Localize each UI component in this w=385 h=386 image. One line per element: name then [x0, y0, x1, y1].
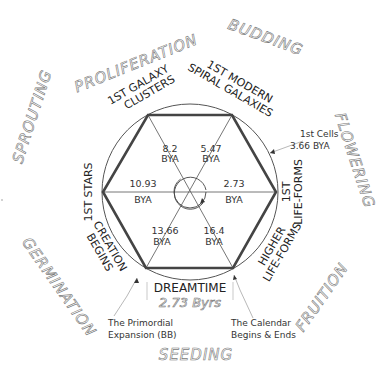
unit-upper-right: BYA	[202, 153, 220, 164]
rotation-arrow-icon	[174, 176, 206, 209]
unit-lower-right: BYA	[205, 236, 223, 247]
season-budding: BUDDING	[226, 15, 306, 59]
stage-life-forms: 1ST LIFE-FORMS	[280, 159, 305, 225]
stage-dreamtime: DREAMTIME	[154, 281, 227, 295]
note-primordial-line1: The Primordial	[107, 318, 173, 328]
note-calendar-line1: The Calendar	[230, 318, 291, 328]
note-primordial-line2: Expansion (BB)	[108, 330, 177, 340]
unit-lower-left: BYA	[153, 236, 171, 247]
value-lower-left: 13.66	[151, 225, 178, 236]
unit-upper-left: BYA	[161, 153, 179, 164]
season-sprouting: SPROUTING	[9, 67, 56, 165]
note-calendar-line2: Begins & Ends	[231, 330, 296, 340]
svg-text:1ST STARS: 1ST STARS	[82, 162, 95, 221]
spokes	[103, 115, 276, 268]
season-seeding: SEEDING	[159, 346, 233, 364]
value-left: 10.93	[129, 178, 156, 189]
dreamtime-duration: 2.73 Byrs	[159, 295, 221, 310]
season-germination: GERMINATION	[18, 234, 100, 340]
stage-first-stars: 1ST STARS	[82, 162, 95, 221]
stage-spiral-galaxies: 1ST MODERN SPIRAL GALAXIES	[186, 50, 282, 120]
note-first-cells-line1: 1st Cells	[300, 129, 339, 139]
note-first-cells-line2: 3.66 BYA	[290, 141, 330, 151]
value-right: 2.73	[223, 178, 244, 189]
svg-text:LIFE-FORMS: LIFE-FORMS	[292, 159, 305, 225]
season-flowering: FLOWERING	[331, 110, 379, 210]
season-fruition: FRUITION	[292, 260, 352, 335]
value-lower-right: 16.4	[203, 225, 224, 236]
cosmic-cycle-diagram: 8.2 BYA 5.47 BYA 10.93 BYA 2.73 BYA 13.6…	[0, 0, 385, 386]
unit-left: BYA	[134, 194, 152, 205]
unit-right: BYA	[225, 194, 243, 205]
